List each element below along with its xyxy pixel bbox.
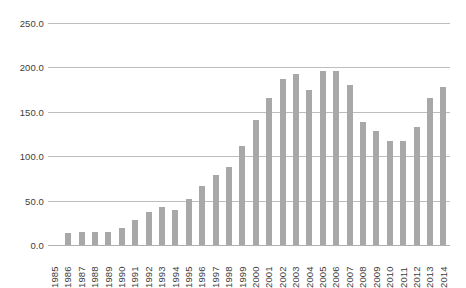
bar-slot [195,23,208,245]
x-axis-tick-label: 1993 [157,246,167,288]
x-axis-tick: 1996 [195,246,208,288]
x-axis-tick-label: 1994 [171,246,181,288]
x-axis-tick-label: 1996 [197,246,207,288]
bar [226,167,232,245]
x-axis-tick: 2011 [397,246,410,288]
x-axis-tick-label: 1987 [77,246,87,288]
y-axis-tick-label: 50.0 [25,195,44,206]
y-axis: 250.0 200.0 150.0 100.0 50.0 0.0 [0,0,48,288]
x-axis-tick-label: 2008 [358,246,368,288]
y-axis-tick-label: 250.0 [20,18,44,29]
bar-slot [155,23,168,245]
bar [427,98,433,245]
x-axis-tick: 1998 [222,246,235,288]
bar-slot [289,23,302,245]
x-axis-tick-label: 1991 [130,246,140,288]
bar [253,120,259,245]
x-axis-tick: 1994 [169,246,182,288]
x-axis-tick: 2000 [249,246,262,288]
x-axis-tick: 1988 [88,246,101,288]
x-axis-tick: 2002 [276,246,289,288]
bar [65,233,71,245]
x-axis-tick-label: 1988 [90,246,100,288]
bar-slot [182,23,195,245]
bar [146,212,152,245]
x-axis: 1985198619871988198919901991199219931994… [48,246,450,288]
bar [79,232,85,245]
bar-slot [61,23,74,245]
bar-slot [276,23,289,245]
bar [280,79,286,245]
bar-slot [249,23,262,245]
bar-slot [410,23,423,245]
x-axis-tick-label: 2002 [278,246,288,288]
x-axis-tick: 1986 [61,246,74,288]
bar [347,85,353,245]
x-axis-tick-label: 1985 [50,246,60,288]
x-axis-tick: 2006 [330,246,343,288]
bar [400,141,406,245]
x-axis-tick: 2010 [383,246,396,288]
plot-area [48,23,450,245]
x-axis-tick-label: 1992 [144,246,154,288]
x-axis-tick: 1985 [48,246,61,288]
x-axis-tick: 1991 [128,246,141,288]
bar-chart: 250.0 200.0 150.0 100.0 50.0 0.0 1985198… [0,0,466,288]
x-axis-tick: 1999 [236,246,249,288]
x-axis-tick-label: 1990 [117,246,127,288]
x-axis-tick-label: 2007 [345,246,355,288]
bar [373,131,379,245]
bar [266,98,272,245]
x-axis-tick: 2001 [263,246,276,288]
bar-slot [397,23,410,245]
bar-series [48,23,450,245]
bar-slot [303,23,316,245]
x-axis-tick-label: 2012 [412,246,422,288]
bar-slot [236,23,249,245]
x-axis-tick-label: 2014 [439,246,449,288]
x-axis-tick-label: 1997 [211,246,221,288]
bar-slot [75,23,88,245]
bar [414,127,420,245]
bar [92,232,98,245]
y-axis-tick-label: 100.0 [20,151,44,162]
bar [186,199,192,245]
x-axis-tick-label: 2013 [425,246,435,288]
x-axis-tick-label: 2006 [331,246,341,288]
bar-slot [128,23,141,245]
x-axis-tick-label: 1995 [184,246,194,288]
x-axis-tick: 2009 [370,246,383,288]
bar-slot [263,23,276,245]
bar-slot [222,23,235,245]
y-axis-tick-label: 0.0 [30,240,44,251]
y-axis-tick-label: 150.0 [20,106,44,117]
x-axis-tick-label: 2003 [291,246,301,288]
bar [119,228,125,245]
bar [105,232,111,245]
bar-slot [370,23,383,245]
bar [159,207,165,245]
bar [132,220,138,245]
x-axis-tick: 2005 [316,246,329,288]
bar-slot [169,23,182,245]
x-axis-tick: 1993 [155,246,168,288]
bar-slot [437,23,450,245]
x-axis-tick-label: 2009 [372,246,382,288]
bar [213,175,219,245]
x-axis-tick-label: 2004 [305,246,315,288]
x-axis-tick: 2013 [423,246,436,288]
x-axis-tick: 1997 [209,246,222,288]
x-axis-tick: 2003 [289,246,302,288]
bar [440,87,446,245]
bar-slot [115,23,128,245]
bar-slot [356,23,369,245]
bar-slot [330,23,343,245]
bar-slot [343,23,356,245]
bar-slot [88,23,101,245]
bar-slot [383,23,396,245]
x-axis-tick: 2014 [437,246,450,288]
bar [293,74,299,245]
x-axis-tick-label: 2001 [264,246,274,288]
x-axis-tick-label: 1998 [224,246,234,288]
bar-slot [48,23,61,245]
